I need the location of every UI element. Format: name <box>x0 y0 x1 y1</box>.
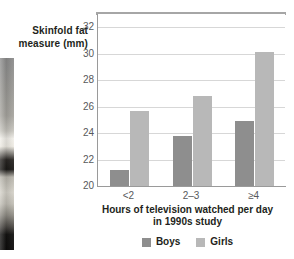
y-tick-label-22: 22 <box>68 155 94 165</box>
bar-boys-group-3 <box>235 121 254 186</box>
x-axis-title-line-1: Hours of television watched per day <box>85 204 290 216</box>
legend-label-girls: Girls <box>210 237 233 247</box>
photo-strip-shading <box>0 58 14 250</box>
legend-swatch-boys <box>142 238 151 247</box>
x-axis-title: Hours of television watched per day in 1… <box>85 204 290 228</box>
legend-entry-girls[interactable]: Girls <box>196 237 233 247</box>
bar-boys-group-1 <box>110 170 129 186</box>
skinfold-fat-bar-chart: Skinfold fat measure (mm) 20222426283032… <box>0 0 294 259</box>
y-tick-label-32: 32 <box>68 22 94 32</box>
x-tick-label-2: 2–3 <box>161 190 221 201</box>
x-axis-title-line-2: in 1990s study <box>85 216 290 228</box>
y-tick-label-30: 30 <box>68 49 94 59</box>
photo-strip-image <box>0 58 14 250</box>
gridline-32 <box>98 27 285 28</box>
y-tick-label-20: 20 <box>68 181 94 191</box>
y-tick-label-26: 26 <box>68 102 94 112</box>
bar-girls-group-3 <box>255 52 274 186</box>
plot-area <box>97 14 285 186</box>
legend-entry-boys[interactable]: Boys <box>142 237 180 247</box>
legend-label-boys: Boys <box>156 237 180 247</box>
bar-girls-group-2 <box>193 96 212 186</box>
chart-legend: BoysGirls <box>85 237 290 247</box>
y-tick-label-24: 24 <box>68 128 94 138</box>
bar-boys-group-2 <box>173 136 192 186</box>
x-tick-label-1: <2 <box>98 190 158 201</box>
y-tick-label-28: 28 <box>68 75 94 85</box>
bar-girls-group-1 <box>130 111 149 186</box>
x-tick-label-3: ≥4 <box>224 190 284 201</box>
x-axis-line <box>97 186 286 187</box>
legend-swatch-girls <box>196 238 205 247</box>
